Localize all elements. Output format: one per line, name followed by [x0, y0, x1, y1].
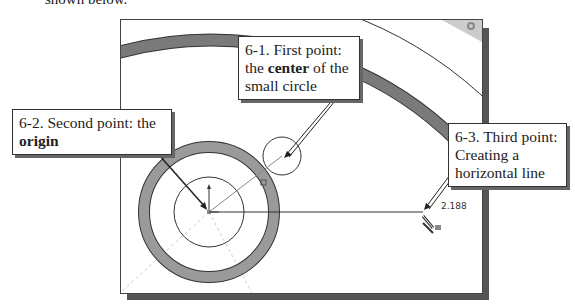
- bold-text: center: [268, 59, 309, 76]
- text: of the: [309, 59, 349, 76]
- top-text: shown below.: [45, 0, 127, 8]
- horizontal-constraint-icon: [423, 216, 441, 233]
- callout-line: horizontal line: [455, 164, 560, 182]
- dimension-value[interactable]: 2.188: [441, 201, 467, 211]
- callout-second-point: 6-2. Second point: the origin: [12, 109, 172, 155]
- callout-third-point: 6-3. Third point: Creating a horizontal …: [448, 123, 567, 187]
- bold-text: origin: [19, 132, 59, 149]
- callout-line: origin: [19, 132, 165, 150]
- callout-line: the center of the: [245, 59, 353, 77]
- callout-line: Creating a: [455, 146, 560, 164]
- text: the: [245, 59, 268, 76]
- callout-line: 6-3. Third point:: [455, 128, 560, 146]
- callout-first-point: 6-1. First point: the center of the smal…: [238, 36, 360, 100]
- callout-line: small circle: [245, 77, 353, 95]
- callout-line: 6-1. First point:: [245, 41, 353, 59]
- callout-line: 6-2. Second point: the: [19, 114, 165, 132]
- corner-view-icon: [442, 20, 482, 42]
